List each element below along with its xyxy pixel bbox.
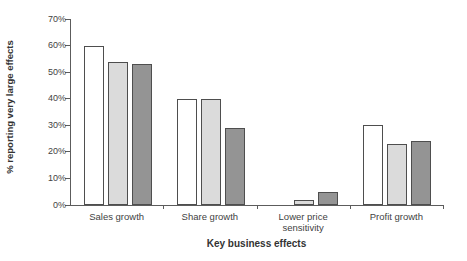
bar-light-gray-bars	[294, 200, 314, 205]
category-label: Lower price sensitivity	[257, 211, 350, 233]
y-axis-tick-label: 30%	[26, 121, 66, 130]
bar-white-bars	[177, 99, 197, 205]
bar-dark-gray-bars	[318, 192, 338, 205]
bar-group	[71, 19, 164, 205]
chart-container: % reporting very large effects 0%10%20%3…	[0, 0, 467, 261]
bar-light-gray-bars	[108, 62, 128, 206]
plot-area: 0%10%20%30%40%50%60%70%	[70, 19, 444, 206]
x-axis-tick	[350, 206, 351, 209]
x-axis-title: Key business effects	[70, 238, 443, 249]
y-axis-tick-label: 60%	[26, 41, 66, 50]
category-label: Sales growth	[70, 211, 163, 233]
bar-group	[258, 19, 351, 205]
x-axis-tick	[163, 206, 164, 209]
bar-group	[351, 19, 444, 205]
bar-dark-gray-bars	[411, 141, 431, 205]
bar-light-gray-bars	[387, 144, 407, 205]
category-labels: Sales growthShare growthLower price sens…	[70, 211, 443, 233]
category-label: Share growth	[163, 211, 256, 233]
x-axis-tick	[443, 206, 444, 209]
y-axis-tick-label: 40%	[26, 94, 66, 103]
bar-dark-gray-bars	[225, 128, 245, 205]
bar-white-bars	[84, 46, 104, 205]
bar-dark-gray-bars	[132, 64, 152, 205]
x-axis-tick	[257, 206, 258, 209]
y-axis-tick-label: 20%	[26, 147, 66, 156]
y-axis-tick-label: 0%	[26, 201, 66, 210]
y-axis-tick-label: 10%	[26, 174, 66, 183]
y-axis-tick-label: 70%	[26, 15, 66, 24]
y-axis-tick-label: 50%	[26, 68, 66, 77]
bar-light-gray-bars	[201, 99, 221, 205]
bar-white-bars	[363, 125, 383, 205]
bar-group	[164, 19, 257, 205]
category-label: Profit growth	[350, 211, 443, 233]
y-axis-title: % reporting very large effects	[3, 16, 17, 198]
